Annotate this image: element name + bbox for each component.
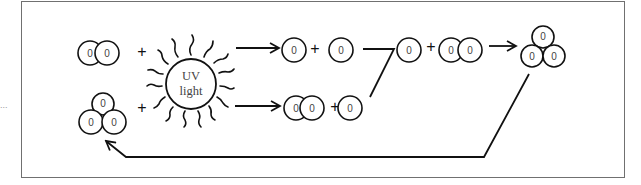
o3-molecule-bottom-left: 0 0 0 — [79, 93, 126, 134]
plus-sign: + — [137, 99, 146, 116]
svg-text:0: 0 — [347, 103, 353, 114]
merge-connector — [363, 49, 394, 97]
svg-text:0: 0 — [406, 45, 412, 56]
o-atom: 0 — [329, 38, 353, 62]
uv-label: UV — [182, 69, 200, 83]
svg-text:0: 0 — [338, 45, 344, 56]
o-atom: 0 — [282, 38, 306, 62]
plus-sign: + — [137, 43, 146, 60]
svg-text:0: 0 — [540, 31, 546, 42]
svg-text:0: 0 — [88, 117, 94, 128]
o2-molecule: 0 0 — [439, 38, 482, 62]
svg-text:0: 0 — [87, 48, 93, 59]
svg-text:0: 0 — [551, 51, 557, 62]
ozone-cycle-diagram: 0 0 + 0 0 0 + UV — [0, 0, 641, 185]
o2-molecule-top-left: 0 0 — [78, 41, 119, 65]
light-label: light — [180, 84, 203, 98]
svg-text:0: 0 — [309, 103, 315, 114]
svg-text:0: 0 — [529, 51, 535, 62]
o-atom: 0 — [397, 38, 421, 62]
plus-sign: + — [310, 40, 319, 57]
plus-sign: + — [426, 38, 435, 55]
svg-text:0: 0 — [467, 45, 473, 56]
o-atom: 0 — [338, 96, 362, 120]
o2-molecule: 0 0 — [284, 96, 324, 120]
o3-molecule-final: 0 0 0 — [521, 26, 565, 67]
svg-text:0: 0 — [104, 48, 110, 59]
svg-text:0: 0 — [111, 117, 117, 128]
svg-text:0: 0 — [448, 45, 454, 56]
svg-text:0: 0 — [291, 45, 297, 56]
svg-text:0: 0 — [293, 103, 299, 114]
svg-text:0: 0 — [100, 98, 106, 109]
sun-icon: UV light — [147, 35, 234, 127]
